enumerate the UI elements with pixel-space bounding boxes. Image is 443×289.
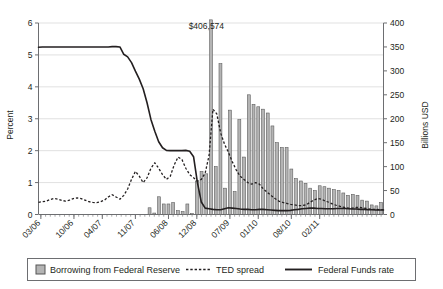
- bar: [271, 126, 274, 215]
- bar: [181, 212, 184, 215]
- left-tick-label: 6: [28, 18, 33, 28]
- right-tick-label: 50: [390, 186, 400, 196]
- left-tick-label: 0: [28, 210, 33, 220]
- bar: [276, 143, 279, 215]
- bar: [162, 204, 165, 215]
- right-axis-title: Billions USD: [420, 101, 430, 148]
- right-tick-label: 250: [390, 90, 404, 100]
- bar: [285, 147, 288, 214]
- left-axis-title: Percent: [5, 110, 15, 140]
- right-tick-label: 400: [390, 18, 404, 28]
- peak-value-annotation: $406,574: [189, 21, 225, 31]
- bar: [148, 208, 151, 215]
- bar: [186, 204, 189, 215]
- right-tick-label: 150: [390, 138, 404, 148]
- bar: [176, 211, 179, 215]
- legend-swatch-borrowing: [36, 265, 45, 274]
- bar: [318, 186, 321, 215]
- legend-label-ted-spread: TED spread: [216, 265, 264, 275]
- bar: [290, 169, 293, 214]
- left-tick-label: 3: [28, 114, 33, 124]
- bar: [257, 107, 260, 215]
- bar: [351, 194, 354, 214]
- bar: [191, 214, 194, 215]
- bar: [356, 195, 359, 214]
- bar: [314, 191, 317, 215]
- bar: [158, 197, 161, 215]
- legend-label-federal-funds-rate: Federal Funds rate: [318, 265, 394, 275]
- chart-figure: 0123456 050100150200250300350400 03/0610…: [0, 0, 443, 289]
- left-tick-label: 5: [28, 50, 33, 60]
- bar: [332, 190, 335, 215]
- left-tick-label: 4: [28, 82, 33, 92]
- right-tick-label: 100: [390, 162, 404, 172]
- bar: [172, 203, 175, 215]
- bar: [233, 192, 236, 215]
- right-tick-label: 0: [390, 210, 395, 220]
- bar: [342, 193, 345, 215]
- bar: [167, 204, 170, 215]
- bar: [247, 95, 250, 215]
- left-tick-label: 2: [28, 146, 33, 156]
- bar: [304, 183, 307, 214]
- right-tick-label: 300: [390, 66, 404, 76]
- left-tick-label: 1: [28, 178, 33, 188]
- bar: [238, 120, 241, 215]
- bar: [266, 113, 269, 215]
- bar: [243, 157, 246, 214]
- bar: [380, 203, 383, 215]
- bar: [252, 104, 255, 214]
- bar: [262, 109, 265, 214]
- bar: [224, 188, 227, 214]
- right-tick-label: 350: [390, 42, 404, 52]
- fed-borrowing-chart: 0123456 050100150200250300350400 03/0610…: [0, 0, 443, 289]
- bar: [280, 147, 283, 214]
- bar: [219, 64, 222, 215]
- bar: [214, 167, 217, 215]
- chart-legend: Borrowing from Federal Reserve TED sprea…: [28, 259, 416, 281]
- right-tick-label: 200: [390, 114, 404, 124]
- bar: [153, 213, 156, 214]
- bar: [200, 171, 203, 214]
- legend-label-borrowing: Borrowing from Federal Reserve: [50, 265, 180, 275]
- bar: [337, 191, 340, 215]
- bar: [347, 195, 350, 214]
- bar: [228, 110, 231, 214]
